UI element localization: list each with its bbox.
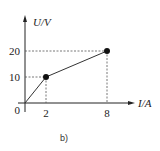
x-tick-2: 2 (43, 107, 49, 119)
x-axis-label: I/A (137, 97, 152, 109)
x-axis-arrow-icon (128, 101, 135, 105)
figure-caption: b) (60, 133, 68, 143)
y-axis-arrow-icon (23, 15, 27, 22)
guide-lines (25, 51, 107, 103)
origin-label: 0 (15, 104, 21, 116)
data-point-8-20 (104, 48, 110, 54)
y-tick-20: 20 (9, 45, 21, 57)
y-tick-10: 10 (9, 71, 21, 83)
x-tick-8: 8 (104, 107, 110, 119)
data-point-2-10 (43, 74, 49, 80)
y-axis-label: U/V (33, 16, 52, 28)
chart-canvas: U/V I/A 20 10 0 2 8 b) (0, 0, 160, 151)
